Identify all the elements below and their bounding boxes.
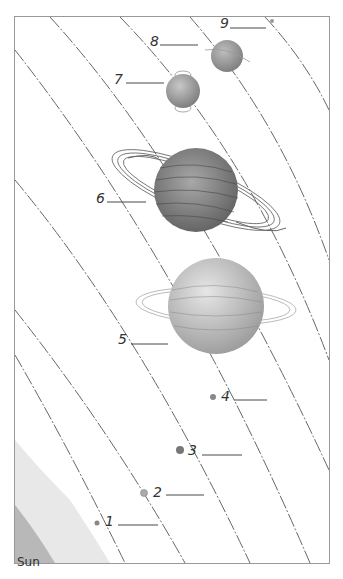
planet-label-7: 7 [114, 72, 123, 86]
planet-label-6: 6 [96, 191, 105, 205]
planet-label-1: 1 [105, 514, 114, 528]
planet-8 [211, 40, 243, 72]
planet-label-3: 3 [188, 443, 197, 457]
planet-1 [95, 521, 100, 526]
sun-label: Sun [17, 555, 40, 569]
planet-4 [210, 394, 216, 400]
planet-6 [154, 148, 238, 232]
planet-3 [176, 446, 184, 454]
planet-7 [166, 74, 200, 108]
planet-2 [141, 490, 148, 497]
planet-5 [168, 258, 264, 354]
planet-9 [270, 19, 274, 23]
solar-system-diagram [0, 0, 343, 579]
planet-label-9: 9 [220, 16, 229, 30]
planet-label-5: 5 [118, 332, 127, 346]
planet-label-8: 8 [150, 34, 159, 48]
planet-label-4: 4 [221, 389, 230, 403]
planet-label-2: 2 [153, 485, 162, 499]
